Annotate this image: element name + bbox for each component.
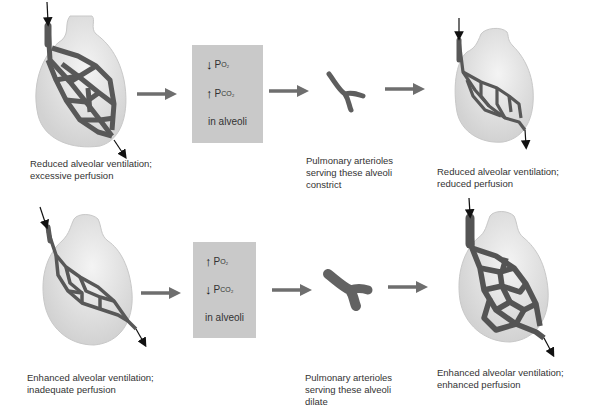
arrow-up-icon: ↑ [205,257,212,267]
flow-arrow [272,283,314,297]
initial-state-label: Reduced alveolar ventilation; excessive … [30,158,200,182]
flow-arrow [269,84,311,98]
arteriole-dilated-icon [322,268,377,313]
box-footer: in alveoli [193,312,256,323]
pco2-indicator: ↑ PCO₂ [192,88,263,99]
arteriole-response-label: Pulmonary arterioles serving these alveo… [306,155,416,191]
alveolar-gas-change-box: ↑ PO₂ ↓ PCO₂ in alveoli [193,242,256,338]
flow-arrow [385,82,427,96]
flow-arrow [388,280,430,294]
arteriole-response-label: Pulmonary arterioles serving these alveo… [305,372,415,408]
alveolar-gas-change-box: ↓ PO₂ ↑ PCO₂ in alveoli [192,45,263,143]
po2-indicator: ↓ PO₂ [192,59,263,70]
alveolus-reduced-ventilation-excessive-perfusion [0,0,150,160]
flow-arrow [141,286,183,300]
pco2-indicator: ↓ PCO₂ [193,284,256,295]
alveolus-enhanced-ventilation-enhanced-perfusion [440,198,570,368]
po2-indicator: ↑ PO₂ [193,256,256,267]
result-state-label: Enhanced alveolar ventilation; enhanced … [437,367,593,391]
alveolus-enhanced-ventilation-inadequate-perfusion [30,205,160,365]
arteriole-constricted-icon [325,70,370,115]
result-state-label: Reduced alveolar ventilation; reduced pe… [437,166,593,190]
alveolus-reduced-ventilation-reduced-perfusion [445,0,565,160]
box-footer: in alveoli [192,116,263,127]
initial-state-label: Enhanced alveolar ventilation; inadequat… [27,372,197,396]
flow-arrow [137,87,179,101]
arrow-up-icon: ↑ [206,89,213,99]
arrow-down-icon: ↓ [205,285,212,295]
arrow-down-icon: ↓ [206,60,213,70]
